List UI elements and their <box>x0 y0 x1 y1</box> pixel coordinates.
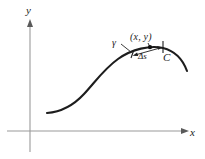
curve-c-label: C <box>163 52 170 63</box>
point-coordinate-label: (x, y) <box>130 32 152 42</box>
x-axis-group <box>7 128 189 134</box>
delta-s-label: Δs <box>138 52 147 61</box>
gamma-label: γ <box>112 38 116 48</box>
y-axis-group <box>27 19 33 152</box>
figure-drawing <box>0 0 205 159</box>
y-axis-arrowhead <box>27 19 33 27</box>
figure-container: y x (x, y) γ Δs C <box>0 0 205 159</box>
gamma-leader-line <box>121 44 131 52</box>
point-marker <box>148 45 152 49</box>
x-axis-arrowhead <box>181 128 189 134</box>
y-axis-label: y <box>26 5 31 16</box>
x-axis-label: x <box>190 127 195 138</box>
